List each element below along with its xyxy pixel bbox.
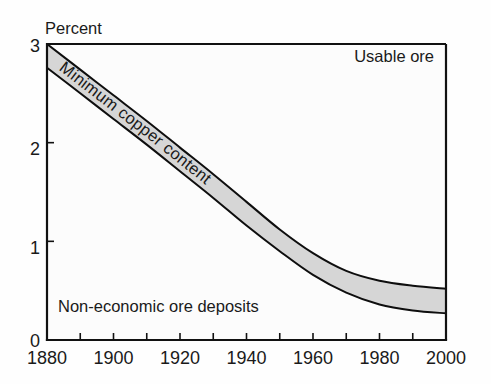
x-tick-label-2000: 2000 [426, 348, 466, 368]
x-tick-label-1900: 1900 [93, 348, 133, 368]
non-economic-ore-label: Non-economic ore deposits [58, 297, 259, 315]
x-tick-label-1880: 1880 [27, 348, 67, 368]
x-tick-label-1960: 1960 [293, 348, 333, 368]
copper-content-chart: 3 2 1 0 Percent 1880 1900 1920 1940 1960… [0, 0, 491, 384]
chart-figure: 3 2 1 0 Percent 1880 1900 1920 1940 1960… [0, 0, 491, 384]
y-tick-label-2: 2 [30, 139, 40, 159]
usable-ore-label: Usable ore [354, 47, 434, 65]
y-axis-title: Percent [45, 19, 102, 37]
x-tick-label-1980: 1980 [359, 348, 399, 368]
y-tick-label-3: 3 [30, 36, 40, 56]
x-tick-label-1940: 1940 [226, 348, 266, 368]
y-tick-label-1: 1 [30, 238, 40, 258]
x-tick-label-1920: 1920 [160, 348, 200, 368]
